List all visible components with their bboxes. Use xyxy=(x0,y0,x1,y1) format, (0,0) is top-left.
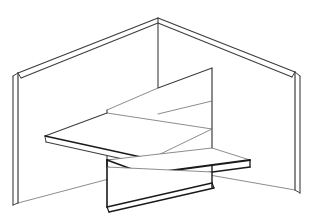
left-wall-edge-thickness-face xyxy=(13,73,18,205)
isometric-alcove-svg xyxy=(0,0,313,217)
drawing-canvas xyxy=(0,0,313,217)
right-wall-edge-thickness-face xyxy=(295,72,300,193)
